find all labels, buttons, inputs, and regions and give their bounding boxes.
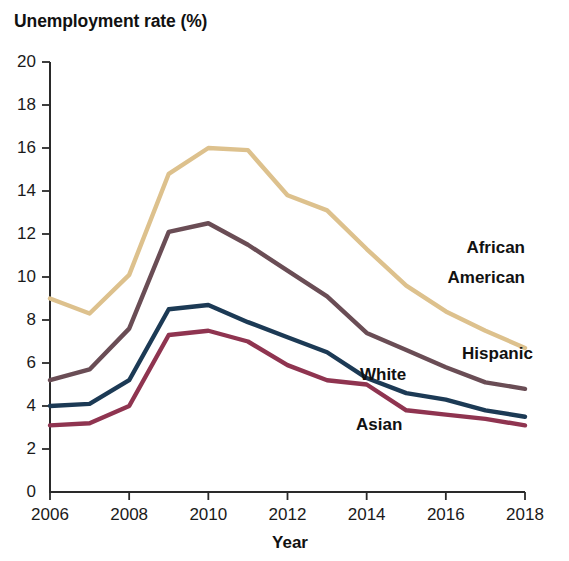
y-tick-label: 2 (27, 439, 36, 458)
y-axis-ticks: 02468101214161820 (17, 52, 50, 501)
series-label-african: African (466, 238, 525, 257)
y-tick-label: 4 (27, 396, 36, 415)
x-tick-label: 2012 (269, 505, 307, 524)
y-tick-label: 8 (27, 310, 36, 329)
x-tick-label: 2008 (110, 505, 148, 524)
y-tick-label: 20 (17, 52, 36, 71)
y-tick-label: 10 (17, 267, 36, 286)
y-tick-label: 18 (17, 95, 36, 114)
y-tick-label: 6 (27, 353, 36, 372)
x-tick-label: 2014 (348, 505, 386, 524)
x-tick-label: 2010 (189, 505, 227, 524)
series-line-african-american (50, 148, 525, 348)
series-line-asian (50, 331, 525, 426)
x-axis-title: Year (272, 533, 308, 552)
series-inline-labels-group: AfricanAmericanHispanicWhiteAsian (356, 238, 533, 433)
series-label-asian: Asian (356, 415, 402, 434)
series-line-white (50, 305, 525, 417)
x-axis-ticks: 2006200820102012201420162018 (31, 492, 544, 524)
y-tick-label: 16 (17, 138, 36, 157)
y-tick-label: 0 (27, 482, 36, 501)
x-tick-label: 2016 (427, 505, 465, 524)
y-tick-label: 12 (17, 224, 36, 243)
chart-plot-area: 02468101214161820 2006200820102012201420… (0, 0, 569, 561)
y-tick-label: 14 (17, 181, 36, 200)
unemployment-rate-chart: Unemployment rate (%) 02468101214161820 … (0, 0, 569, 561)
x-tick-label: 2018 (506, 505, 544, 524)
series-label-american: American (448, 268, 525, 287)
x-tick-label: 2006 (31, 505, 69, 524)
series-label-hispanic: Hispanic (462, 344, 533, 363)
series-label-white: White (360, 365, 406, 384)
